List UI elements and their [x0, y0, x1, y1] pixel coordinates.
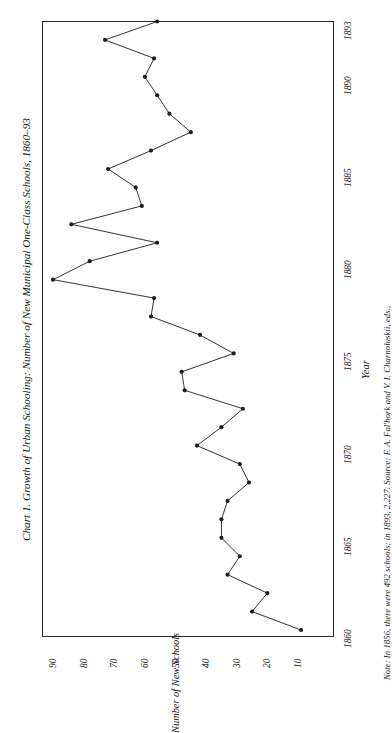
y-tick-label: 60: [140, 659, 150, 668]
x-tick-label: 1865: [343, 537, 353, 556]
y-tick-label: 10: [293, 659, 303, 668]
y-tick-label: 80: [79, 659, 89, 668]
data-point-marker: [155, 241, 159, 245]
x-tick-label: 1890: [343, 76, 353, 95]
y-tick-label: 70: [109, 659, 119, 668]
data-point-marker: [149, 314, 153, 318]
data-point-marker: [265, 591, 269, 595]
x-tick-label: 1880: [343, 260, 353, 279]
data-point-marker: [152, 56, 156, 60]
data-point-marker: [134, 185, 138, 189]
data-point-marker: [238, 554, 242, 558]
y-tick-label: 90: [48, 659, 58, 668]
data-point-marker: [189, 130, 193, 134]
data-point-marker: [219, 425, 223, 429]
data-point-marker: [195, 444, 199, 448]
data-point-marker: [247, 480, 251, 484]
y-tick-label: 20: [262, 659, 272, 668]
y-tick-label: 40: [201, 659, 211, 668]
data-point-marker: [180, 370, 184, 374]
data-point-marker: [219, 517, 223, 521]
data-point-marker: [149, 148, 153, 152]
data-point-marker: [219, 536, 223, 540]
data-point-marker: [250, 609, 254, 613]
data-point-marker: [155, 93, 159, 97]
x-tick-label: 1870: [343, 445, 353, 464]
data-point-marker: [103, 38, 107, 42]
data-point-marker: [198, 333, 202, 337]
data-point-marker: [167, 112, 171, 116]
data-point-marker: [152, 296, 156, 300]
chart-note: Note: In 1856, there were 492 schools; i…: [382, 306, 392, 680]
data-point-marker: [69, 222, 73, 226]
x-axis-title: Year: [360, 360, 371, 379]
data-point-marker: [155, 19, 159, 23]
data-point-marker: [238, 462, 242, 466]
x-tick-label: 1885: [343, 168, 353, 187]
x-tick-label: 1893: [343, 21, 353, 40]
data-point-marker: [241, 407, 245, 411]
data-point-marker: [51, 278, 55, 282]
x-tick-label: 1875: [343, 353, 353, 372]
y-tick-label: 30: [232, 659, 242, 668]
data-point-marker: [140, 204, 144, 208]
data-point-marker: [106, 167, 110, 171]
data-point-marker: [183, 388, 187, 392]
data-point-marker: [225, 573, 229, 577]
x-tick-label: 1860: [343, 629, 353, 648]
data-point-marker: [143, 75, 147, 79]
data-point-marker: [88, 259, 92, 263]
data-point-marker: [225, 499, 229, 503]
data-point-marker: [232, 351, 236, 355]
y-axis-title: Number of New Schools: [170, 633, 181, 733]
data-point-marker: [299, 628, 303, 632]
series-polyline: [53, 22, 301, 631]
